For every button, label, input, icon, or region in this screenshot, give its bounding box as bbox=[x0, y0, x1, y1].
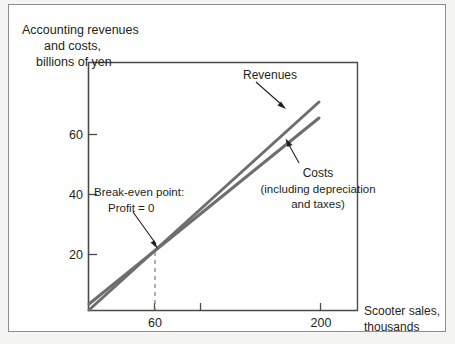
axis-title-line1: Accounting revenues bbox=[22, 23, 139, 37]
breakeven-annotation: Break-even point: Profit = 0 bbox=[94, 186, 184, 214]
axis-title-line2: and costs, bbox=[44, 39, 101, 53]
costs-sublabel-line2: and taxes) bbox=[291, 198, 345, 210]
axis-title-line3: billions of yen bbox=[36, 55, 112, 69]
y-tick-label-60: 60 bbox=[69, 128, 83, 142]
y-tick-label-20: 20 bbox=[69, 248, 83, 262]
x-axis-label: Scooter sales, thousands bbox=[364, 304, 440, 334]
breakeven-arrowhead bbox=[151, 241, 159, 250]
callout-arrows bbox=[133, 82, 299, 249]
costs-series-label: Costs bbox=[303, 166, 334, 180]
chart-svg: Accounting revenues and costs, billions … bbox=[0, 0, 455, 344]
breakeven-label-line2: Profit = 0 bbox=[108, 202, 154, 214]
y-tick-labels: 60 40 20 bbox=[69, 128, 83, 262]
x-axis-label-line1: Scooter sales, bbox=[364, 304, 440, 318]
costs-sublabel-line1: (including depreciation bbox=[260, 183, 375, 195]
costs-series-label-group: Costs (including depreciation and taxes) bbox=[260, 166, 375, 210]
y-tick-label-40: 40 bbox=[69, 188, 83, 202]
x-axis bbox=[88, 303, 358, 311]
figure-container: Accounting revenues and costs, billions … bbox=[0, 0, 455, 344]
x-tick-label-60: 60 bbox=[148, 316, 162, 330]
x-tick-label-200: 200 bbox=[311, 316, 332, 330]
breakeven-label-line1: Break-even point: bbox=[94, 186, 184, 198]
x-tick-labels: 60 200 bbox=[148, 316, 331, 330]
x-axis-label-line2: thousands bbox=[364, 320, 419, 334]
revenues-series-label: Revenues bbox=[243, 68, 297, 82]
